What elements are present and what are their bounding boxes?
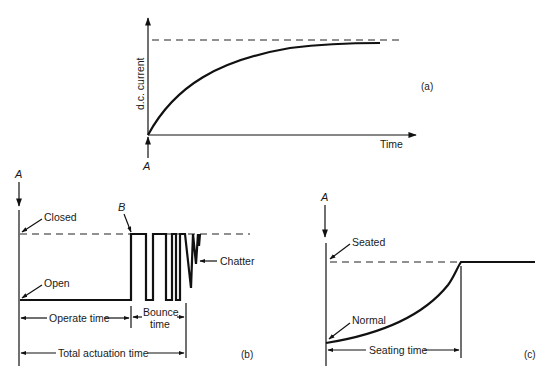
seated-label: Seated: [352, 236, 385, 248]
panel-b: A Closed Open B Chatter Operate time Bou…: [14, 168, 255, 366]
open-label: Open: [44, 277, 70, 289]
y-axis-label: d.c. current: [134, 57, 146, 110]
closed-pointer: [22, 219, 42, 232]
closed-label: Closed: [44, 211, 77, 223]
marker-a-label: A: [320, 191, 328, 203]
bounce-time-label-line2: time: [150, 318, 170, 330]
marker-a-label: A: [142, 160, 150, 172]
total-actuation-time-label: Total actuation time: [58, 347, 149, 359]
seating-time-label: Seating time: [369, 344, 428, 356]
seated-pointer: [330, 244, 350, 259]
chatter-label: Chatter: [220, 255, 255, 267]
x-axis-label: Time: [380, 138, 403, 150]
panel-a-caption: (a): [421, 81, 433, 92]
normal-pointer: [329, 323, 350, 339]
seating-curve: [326, 262, 535, 343]
open-pointer: [22, 285, 42, 298]
panel-b-caption: (b): [241, 349, 253, 360]
contact-bounce-waveform: [20, 234, 200, 300]
panel-a: A d.c. current Time (a): [134, 18, 433, 172]
current-rise-curve: [148, 43, 380, 135]
normal-label: Normal: [352, 314, 386, 326]
operate-time-label: Operate time: [49, 312, 110, 324]
marker-a-label: A: [14, 168, 22, 180]
marker-b-label: B: [118, 201, 125, 213]
panel-c: A Seated Normal Seating time (c): [320, 191, 536, 366]
panel-c-caption: (c): [524, 349, 536, 360]
bounce-time-label-line1: Bounce: [143, 306, 179, 318]
marker-b-pointer: [124, 214, 131, 232]
